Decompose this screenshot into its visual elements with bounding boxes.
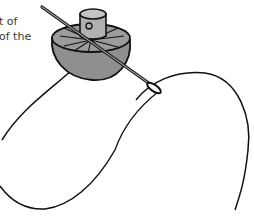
- thread-lower-left: [2, 70, 72, 140]
- thread-mid-to-eye: [115, 92, 158, 150]
- pincushion-needle-thread-illustration: [0, 0, 254, 218]
- thread-bottom-loop: [0, 150, 115, 209]
- thread-right-arc: [136, 73, 249, 210]
- pincushion: [52, 9, 130, 80]
- spool-top: [80, 9, 106, 19]
- needle-eye: [146, 81, 163, 95]
